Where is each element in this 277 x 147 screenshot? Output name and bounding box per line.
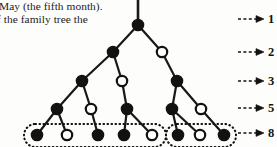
generation-arrows-layer (238, 16, 264, 137)
tree-node-female (118, 129, 129, 140)
generation-count-label: 1 (268, 12, 277, 27)
tree-node-female (218, 129, 229, 140)
tree-node-female (121, 103, 132, 114)
generation-count-label: 5 (268, 101, 277, 116)
tree-node-female (76, 75, 87, 86)
tree-node-male (147, 130, 157, 140)
tree-node-female (171, 75, 182, 86)
generation-arrow-head (256, 78, 264, 85)
generation-count-label: 8 (268, 126, 277, 141)
generation-arrow-head (256, 105, 264, 112)
family-tree-diagram (0, 0, 277, 147)
tree-node-female (166, 103, 177, 114)
generation-arrow-head (256, 49, 264, 56)
tree-node-male (86, 104, 96, 114)
tree-edge (82, 52, 113, 81)
tree-node-male (117, 76, 127, 86)
tree-node-female (92, 129, 103, 140)
generation-arrow-head (256, 16, 264, 23)
tree-node-female (51, 103, 62, 114)
tree-node-female (31, 129, 42, 140)
tree-edges-layer (37, 0, 224, 135)
tree-node-female (172, 129, 183, 140)
tree-node-male (196, 104, 206, 114)
figure-page: May (the fifth month). f the family tree… (0, 0, 277, 147)
tree-node-male (157, 47, 167, 57)
generation-arrow-head (256, 130, 264, 137)
tree-node-female (132, 19, 143, 30)
tree-node-female (107, 46, 118, 57)
tree-node-male (195, 130, 205, 140)
generation-count-label: 2 (268, 45, 277, 60)
tree-node-male (62, 130, 72, 140)
generation-count-label: 3 (268, 74, 277, 89)
